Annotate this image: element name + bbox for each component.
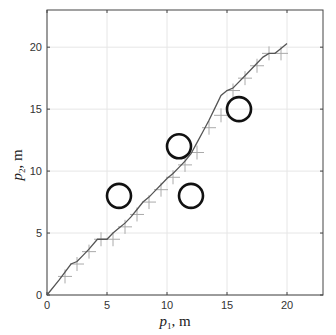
y-tick-label: 5	[36, 227, 42, 239]
waypoint-markers	[58, 46, 288, 283]
grid-lines	[47, 10, 323, 295]
y-tick-label: 20	[30, 41, 42, 53]
y-tick-label: 10	[30, 165, 42, 177]
y-tick-label: 0	[36, 289, 42, 301]
obstacle-circle	[179, 184, 203, 208]
x-tick-label: 0	[44, 299, 50, 311]
plus-marker	[202, 121, 216, 135]
x-axis-label: p1, m	[158, 313, 191, 331]
plot-area-border	[47, 10, 323, 295]
y-tick-label: 15	[30, 103, 42, 115]
plus-marker	[250, 59, 264, 73]
plus-marker	[82, 245, 96, 259]
x-tick-label: 10	[161, 299, 173, 311]
x-tick-label: 5	[104, 299, 110, 311]
axis-ticks: 0510152005101520	[30, 10, 323, 311]
plus-marker	[178, 158, 192, 172]
obstacle-circle	[167, 134, 191, 158]
x-tick-label: 15	[221, 299, 233, 311]
obstacle-circle	[107, 184, 131, 208]
x-tick-label: 20	[281, 299, 293, 311]
y-axis-label: p2, m	[9, 149, 27, 182]
plus-marker	[106, 232, 120, 246]
obstacle-circles	[107, 97, 251, 208]
trajectory-chart: 0510152005101520 p1, m p2, m	[0, 0, 336, 335]
plus-marker	[238, 71, 252, 85]
